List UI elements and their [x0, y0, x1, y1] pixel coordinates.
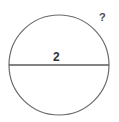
circle-diameter-figure: 2 ? [0, 0, 119, 122]
diameter-length-label: 2 [53, 51, 60, 63]
unknown-quantity-label: ? [99, 12, 106, 23]
